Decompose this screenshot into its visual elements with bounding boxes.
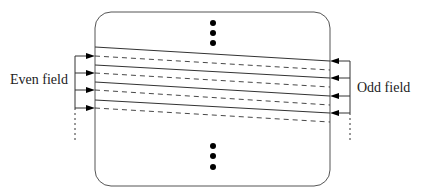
arrow-left-icon <box>330 110 339 116</box>
odd-scan-line <box>95 82 330 96</box>
screen-frame <box>95 12 330 186</box>
odd-field-label: Odd field <box>357 80 410 96</box>
even-scan-line <box>95 108 330 122</box>
arrow-left-icon <box>330 58 339 64</box>
diagram-canvas <box>0 0 426 193</box>
ellipsis-dot <box>210 40 216 46</box>
arrow-right-icon <box>86 87 95 93</box>
odd-scan-line <box>95 100 330 113</box>
even-scan-line <box>95 73 330 87</box>
even-field-label: Even field <box>10 72 68 88</box>
ellipsis-dot <box>210 30 216 36</box>
arrow-left-icon <box>330 93 339 99</box>
even-scan-line <box>95 90 330 105</box>
arrow-left-icon <box>330 75 339 81</box>
arrow-right-icon <box>86 70 95 76</box>
odd-scan-line <box>95 65 330 78</box>
arrow-right-icon <box>86 53 95 59</box>
even-scan-line <box>95 56 330 70</box>
ellipsis-dot <box>210 153 216 159</box>
interlace-diagram: Even field Odd field <box>0 0 426 193</box>
ellipsis-dot <box>210 143 216 149</box>
ellipsis-dot <box>210 164 216 170</box>
arrow-right-icon <box>86 105 95 111</box>
odd-scan-line <box>95 47 330 61</box>
ellipsis-dot <box>210 20 216 26</box>
